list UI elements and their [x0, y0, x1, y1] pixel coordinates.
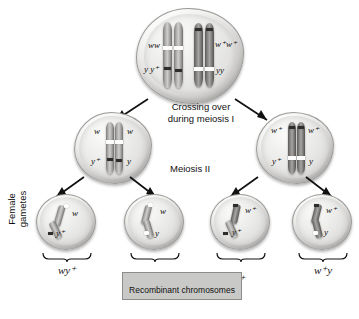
parent-chromatid-3	[194, 23, 203, 87]
marker-band	[116, 159, 122, 162]
gamete-2: w y	[124, 194, 184, 250]
recombinant-chromosomes-label: Recombinant chromosomes	[123, 285, 241, 295]
meiosis-i-right-label-top-right: w⁺	[308, 126, 319, 135]
gamete-1-allele-w: w	[72, 209, 78, 218]
genotype-gamete-1: wy⁺	[42, 264, 92, 277]
meiosis-i-right-chromatid-2	[297, 122, 305, 174]
meiosis-i-right-label-top-left: w⁺	[271, 126, 282, 135]
genotype-gamete-4: w⁺y	[298, 264, 348, 277]
gamete-3-allele-w: w⁺	[245, 206, 256, 215]
meiosis-i-left-label-bottom-right: y	[127, 157, 131, 166]
brace-gamete-4	[298, 252, 348, 263]
centromere-band	[115, 140, 123, 144]
gamete-1-marker-band	[48, 232, 53, 235]
gamete-2-cytoplasm	[128, 197, 180, 245]
recombinant-chromosomes-box: Recombinant chromosomes	[122, 272, 242, 300]
marker-band	[206, 28, 213, 31]
gamete-4-cytoplasm	[296, 197, 348, 245]
centromere-band	[163, 46, 172, 50]
centromere-band	[106, 140, 114, 144]
gamete-4-allele-w: w⁺	[326, 206, 337, 215]
caption-crossing-over: Crossing over during meiosis I	[148, 101, 254, 125]
gamete-1: w y⁺	[36, 194, 96, 250]
gamete-2-telomere-band	[148, 203, 153, 207]
meiosis-diagram: ww w⁺w⁺ y y⁺ yy Crossing over during mei…	[0, 0, 359, 319]
female-gametes-label-line1: Female	[6, 173, 17, 245]
meiosis-i-left-label-top-right: w	[127, 127, 133, 136]
meiosis-i-left-label-top-left: w	[94, 127, 100, 136]
marker-band	[175, 69, 182, 72]
brace-gamete-1	[42, 252, 92, 263]
parent-label-bottom-left: y y⁺	[144, 65, 159, 74]
centromere-band	[174, 46, 183, 50]
parent-label-top-right: w⁺w⁺	[215, 40, 237, 49]
meiosis-i-left-label-bottom-left: y⁺	[91, 157, 100, 166]
parent-label-bottom-right: yy	[216, 66, 224, 75]
marker-band	[289, 126, 295, 129]
parent-cell: ww w⁺w⁺ y y⁺ yy	[136, 8, 244, 104]
meiosis-i-right-chromatid-1	[288, 122, 296, 174]
caption-crossing-over-line2: during meiosis I	[148, 113, 254, 125]
centromere-band	[288, 156, 296, 160]
gamete-4-allele-y: y	[324, 228, 328, 237]
gamete-4-centromere-band	[313, 231, 318, 235]
parent-chromatid-1	[163, 22, 172, 88]
gamete-3-allele-y: y⁺	[232, 228, 241, 237]
marker-band	[195, 28, 202, 31]
parent-chromatid-4	[205, 23, 214, 87]
meiosis-i-right-label-bottom-right: y	[309, 157, 313, 166]
centromere-band	[297, 156, 305, 160]
marker-band	[164, 67, 171, 70]
meiosis-i-left-chromatid-2	[115, 122, 123, 174]
gamete-2-centromere-band	[144, 231, 149, 235]
gamete-4-marker-band	[314, 204, 319, 207]
brace-gamete-3	[216, 252, 266, 263]
parent-label-top-left: ww	[148, 41, 160, 50]
gamete-2-allele-y: y	[155, 229, 159, 238]
marker-band	[107, 158, 113, 161]
caption-meiosis-ii: Meiosis II	[170, 163, 210, 175]
female-gametes-label-line2: gametes	[17, 173, 28, 245]
gamete-1-allele-y: y⁺	[56, 229, 65, 238]
marker-band	[298, 126, 304, 129]
gamete-1-telomere-band	[64, 204, 69, 208]
caption-crossing-over-line1: Crossing over	[148, 101, 254, 113]
meiosis-i-right-label-bottom-left: y⁺	[272, 157, 281, 166]
brace-gamete-2	[130, 252, 180, 263]
parent-chromatid-2	[174, 22, 183, 88]
centromere-band	[194, 67, 203, 71]
gamete-4: w⁺ y	[292, 194, 352, 250]
centromere-band	[205, 67, 214, 71]
gamete-3: w⁺ y⁺	[210, 194, 270, 250]
meiosis-i-cell-left: w w y⁺ y	[74, 112, 152, 184]
meiosis-i-left-chromatid-1	[106, 122, 114, 174]
meiosis-i-cell-right: w⁺ w⁺ y⁺ y	[256, 112, 334, 184]
gamete-3-marker-band-2	[223, 232, 228, 235]
female-gametes-label: Female gametes	[6, 173, 28, 245]
gamete-2-allele-w: w	[160, 207, 166, 216]
gamete-3-marker-band	[233, 204, 238, 207]
